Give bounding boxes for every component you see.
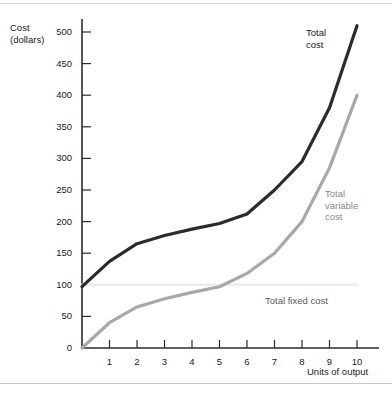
annotation-tvc-line1: Total [325, 188, 345, 199]
y-axis-title-line2: (dollars) [10, 34, 44, 45]
y-tick-label: 50 [46, 310, 72, 321]
annotation-tvc-line2: variable [325, 200, 358, 211]
y-tick-label: 0 [46, 342, 72, 353]
figure-container: Cost(dollars) Units of output Totalcost … [0, 0, 392, 394]
x-tick-label: 1 [101, 356, 119, 367]
annotation-total-cost-line1: Total [306, 27, 326, 38]
series-line-total-cost [82, 26, 357, 287]
annotation-tvc-line3: cost [325, 211, 342, 222]
y-axis-title-line1: Cost [10, 22, 30, 33]
y-tick-label: 350 [46, 121, 72, 132]
x-tick-label: 10 [348, 356, 366, 367]
annotation-total-fixed-cost: Total fixed cost [265, 295, 328, 307]
axis-lines [82, 19, 379, 348]
y-tick-label: 500 [46, 26, 72, 37]
annotation-total-variable-cost: Totalvariablecost [325, 188, 358, 223]
x-tick-label: 8 [293, 356, 311, 367]
y-tick-label: 100 [46, 279, 72, 290]
y-tick-label: 300 [46, 152, 72, 163]
x-tick-label: 5 [211, 356, 229, 367]
y-tick-label: 250 [46, 184, 72, 195]
y-tick-label: 400 [46, 89, 72, 100]
x-tick-label: 2 [128, 356, 146, 367]
y-tick-label: 150 [46, 247, 72, 258]
x-tick-label: 4 [183, 356, 201, 367]
chart-plot-area: Cost(dollars) Units of output Totalcost … [0, 0, 392, 394]
y-tick-label: 200 [46, 216, 72, 227]
x-tick-label: 6 [238, 356, 256, 367]
annotation-total-cost-line2: cost [306, 39, 323, 50]
x-tick-label: 9 [321, 356, 339, 367]
y-tick-label: 450 [46, 58, 72, 69]
x-axis-title: Units of output [307, 366, 368, 378]
x-tick-label: 7 [266, 356, 284, 367]
y-axis-title: Cost(dollars) [10, 22, 44, 45]
x-tick-label: 3 [156, 356, 174, 367]
annotation-total-cost: Totalcost [306, 27, 326, 50]
